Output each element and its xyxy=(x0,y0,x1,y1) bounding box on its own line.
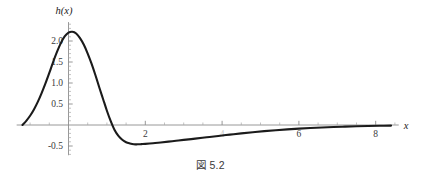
x-axis-tick-labels: 2468 xyxy=(143,129,378,139)
y-axis-title: h(x) xyxy=(56,5,73,17)
plot-area: 2468 -0.50.51.01.52.0 h(x) x xyxy=(0,0,421,156)
function-curve xyxy=(22,32,391,145)
x-tick-label: 2 xyxy=(143,129,148,139)
plot-svg: 2468 -0.50.51.01.52.0 h(x) x xyxy=(0,0,421,156)
axes-group xyxy=(17,22,399,155)
x-tick-label: 4 xyxy=(220,129,225,139)
figure-caption: 図 5.2 xyxy=(0,157,421,172)
x-axis-title: x xyxy=(403,120,409,131)
y-tick-label: 0.5 xyxy=(51,99,63,109)
x-tick-label: 8 xyxy=(373,129,378,139)
y-tick-label: -0.5 xyxy=(48,141,63,151)
y-tick-label: 1.0 xyxy=(51,78,63,88)
y-axis-major-ticks xyxy=(69,41,73,146)
x-tick-label: 6 xyxy=(297,129,302,139)
figure-container: 2468 -0.50.51.01.52.0 h(x) x 図 5.2 xyxy=(0,0,421,183)
